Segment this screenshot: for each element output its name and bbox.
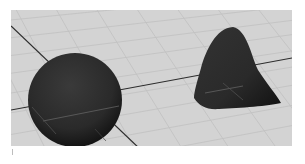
viewport-corner-marker xyxy=(12,149,13,155)
scene-canvas[interactable] xyxy=(11,10,292,146)
3d-viewport[interactable] xyxy=(11,10,292,146)
sphere-object[interactable] xyxy=(28,53,122,146)
cone-object[interactable] xyxy=(194,27,281,109)
